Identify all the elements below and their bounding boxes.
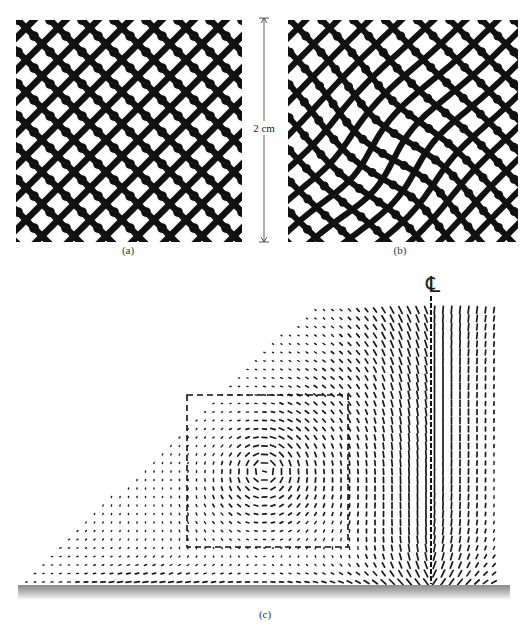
velocity-vector-field [0,270,530,600]
panel-b-label: (b) [394,244,407,256]
panel-a-label: (a) [122,244,134,256]
regular-mesh-image [16,20,242,242]
ground-plane [18,585,510,599]
distorted-mesh-image [288,20,518,242]
centerline-symbol-icon: ℄ [426,274,440,296]
scale-bar-label: 2 cm [251,121,277,135]
panel-c-label: (c) [259,608,271,620]
